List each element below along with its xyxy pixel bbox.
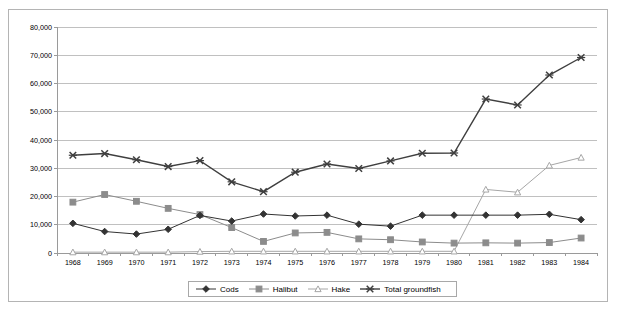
y-axis-tick-label: 80,000 [30, 23, 52, 32]
x-axis-tick-label: 1978 [383, 258, 399, 267]
data-point-square-marker [229, 225, 235, 231]
data-point-square-marker [70, 199, 76, 205]
x-axis-tick-label: 1982 [510, 258, 526, 267]
data-point-diamond-marker [260, 211, 267, 218]
data-point-square-marker [515, 240, 521, 246]
data-point-cross-marker [196, 157, 204, 164]
data-point-square-marker [419, 239, 425, 245]
legend-marker-triangle-icon [307, 284, 329, 294]
y-axis-tick-label: 20,000 [30, 192, 52, 201]
data-point-square-marker [261, 239, 267, 245]
data-point-square-marker [483, 240, 489, 246]
data-point-diamond-marker [483, 212, 490, 219]
data-point-diamond-marker [419, 212, 426, 219]
data-point-cross-marker [450, 150, 458, 157]
x-axis-tick-label: 1977 [351, 258, 367, 267]
x-axis-tick-label: 1983 [541, 258, 557, 267]
data-point-square-marker [388, 237, 394, 243]
x-axis-tick-label: 1981 [478, 258, 494, 267]
data-point-cross-marker [545, 72, 553, 79]
legend-item-cods: Cods [195, 284, 248, 294]
data-point-cross-marker [513, 102, 521, 109]
data-point-diamond-marker [292, 213, 299, 220]
data-point-cross-marker [482, 96, 490, 103]
x-axis-tick-label: 1974 [255, 258, 271, 267]
data-point-square-marker [356, 236, 362, 242]
y-axis-tick-label: 50,000 [30, 107, 52, 116]
data-point-diamond-marker [203, 286, 210, 293]
data-point-square-marker [134, 198, 140, 204]
data-point-triangle-marker [578, 154, 584, 160]
x-axis-tick-label: 1969 [97, 258, 113, 267]
data-point-diamond-marker [101, 228, 108, 235]
series-line-total-groundfish [73, 58, 581, 192]
data-point-cross-marker [69, 152, 77, 159]
data-point-diamond-marker [387, 223, 394, 230]
legend-marker-square-icon [248, 284, 270, 294]
x-axis-tick-label: 1973 [224, 258, 240, 267]
line-chart-plot: 010,00020,00030,00040,00050,00060,00070,… [9, 10, 609, 303]
chart-frame: 010,00020,00030,00040,00050,00060,00070,… [8, 9, 608, 302]
data-point-cross-marker [323, 161, 331, 168]
y-axis-tick-label: 40,000 [30, 136, 52, 145]
y-axis-tick-label: 30,000 [30, 164, 52, 173]
legend-label: Total groundfish [384, 285, 440, 294]
data-point-cross-marker [386, 158, 394, 165]
legend-item-hake: Hake [307, 284, 360, 294]
x-axis-tick-label: 1980 [446, 258, 462, 267]
data-point-diamond-marker [578, 216, 585, 223]
x-axis-tick-label: 1976 [319, 258, 335, 267]
data-point-square-marker [256, 286, 262, 292]
data-point-cross-marker [132, 156, 140, 163]
legend-marker-cross-icon [359, 284, 381, 294]
legend-marker-diamond-icon [195, 284, 217, 294]
data-point-cross-marker [164, 163, 172, 170]
data-point-square-marker [324, 229, 330, 235]
data-point-diamond-marker [324, 212, 331, 219]
series-line-hake [73, 158, 581, 253]
x-axis-tick-label: 1971 [160, 258, 176, 267]
data-point-square-marker [546, 240, 552, 246]
x-axis-tick-label: 1972 [192, 258, 208, 267]
data-point-square-marker [578, 235, 584, 241]
legend-item-total-groundfish: Total groundfish [359, 284, 449, 294]
data-point-square-marker [102, 192, 108, 198]
legend-label: Cods [220, 285, 239, 294]
data-point-diamond-marker [165, 226, 172, 233]
data-point-diamond-marker [451, 212, 458, 219]
y-axis-tick-label: 70,000 [30, 51, 52, 60]
data-point-cross-marker [101, 150, 109, 157]
data-point-cross-marker [291, 169, 299, 176]
y-axis-tick-label: 60,000 [30, 79, 52, 88]
data-point-diamond-marker [70, 220, 77, 227]
data-point-square-marker [451, 240, 457, 246]
data-point-diamond-marker [546, 211, 553, 218]
data-point-square-marker [292, 230, 298, 236]
y-axis-tick-label: 0 [48, 249, 52, 258]
data-point-diamond-marker [228, 218, 235, 225]
x-axis-tick-label: 1984 [573, 258, 589, 267]
chart-legend: CodsHalibutHakeTotal groundfish [188, 281, 457, 297]
legend-item-halibut: Halibut [248, 284, 307, 294]
data-point-cross-marker [259, 188, 267, 195]
data-point-diamond-marker [355, 221, 362, 228]
y-axis-tick-label: 10,000 [30, 220, 52, 229]
data-point-cross-marker [418, 150, 426, 157]
data-point-diamond-marker [514, 212, 521, 219]
legend-label: Hake [332, 285, 351, 294]
data-point-cross-marker [228, 179, 236, 186]
x-axis-tick-label: 1975 [287, 258, 303, 267]
data-point-cross-marker [366, 286, 374, 293]
data-point-square-marker [165, 205, 171, 211]
x-axis-tick-label: 1979 [414, 258, 430, 267]
legend-label: Halibut [273, 285, 298, 294]
x-axis-tick-label: 1968 [65, 258, 81, 267]
data-point-cross-marker [355, 165, 363, 172]
x-axis-tick-label: 1970 [128, 258, 144, 267]
data-point-diamond-marker [133, 231, 140, 238]
